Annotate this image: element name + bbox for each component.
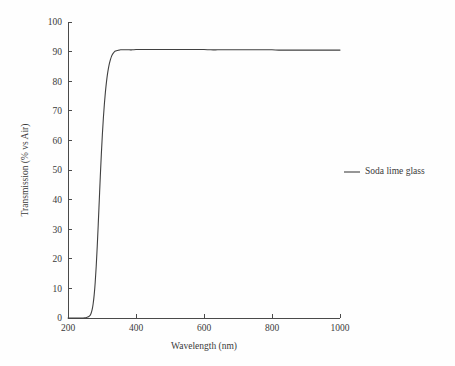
legend-label: Soda lime glass — [365, 166, 425, 176]
x-tick-label: 200 — [61, 323, 76, 333]
x-tick-label: 1000 — [331, 323, 350, 333]
series-line-soda-lime-glass — [68, 50, 340, 319]
transmission-spectrum-chart: 0102030405060708090100 2004006008001000 … — [0, 0, 455, 366]
y-tick-label: 20 — [53, 254, 63, 264]
y-tick-label: 80 — [53, 77, 63, 87]
y-tick-label: 50 — [53, 165, 63, 175]
y-tick-label: 70 — [53, 106, 63, 116]
x-tick-label: 800 — [265, 323, 280, 333]
chart-legend: Soda lime glass — [344, 166, 425, 176]
x-tick-label: 600 — [197, 323, 212, 333]
y-tick-label: 100 — [48, 17, 63, 27]
y-tick-label: 40 — [53, 195, 63, 205]
x-axis-title: Wavelength (nm) — [171, 341, 237, 352]
y-tick-label: 30 — [53, 225, 63, 235]
y-tick-label: 0 — [57, 313, 62, 323]
x-axis-ticks: 2004006008001000 — [61, 314, 350, 333]
data-series-group — [68, 50, 340, 319]
y-tick-label: 90 — [53, 47, 63, 57]
chart-figure: 0102030405060708090100 2004006008001000 … — [0, 0, 455, 366]
y-axis-title: Transmission (% vs Air) — [20, 124, 31, 217]
x-tick-label: 400 — [129, 323, 144, 333]
y-tick-label: 60 — [53, 136, 63, 146]
y-tick-label: 10 — [53, 284, 63, 294]
